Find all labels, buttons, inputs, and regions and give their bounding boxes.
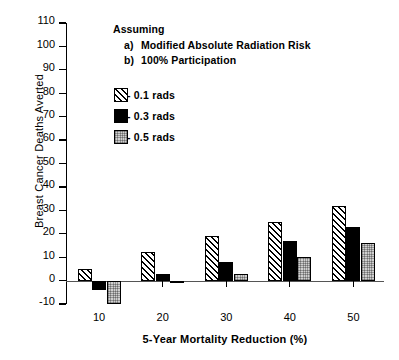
- y-tick-label: 40: [21, 178, 55, 190]
- y-tick-label: 90: [21, 61, 55, 73]
- y-tick: 90: [59, 69, 66, 70]
- y-tick-label: 0: [21, 272, 55, 284]
- y-tick: 110: [59, 22, 66, 23]
- y-tick: 70: [59, 116, 66, 117]
- legend-item: - 0.3 rads: [114, 105, 175, 126]
- assumption-item: a) Modified Absolute Radiation Risk: [124, 38, 311, 53]
- y-tick-label: 50: [21, 155, 55, 167]
- y-tick-label: 100: [21, 38, 55, 50]
- bar: [205, 236, 219, 280]
- bar: [283, 241, 297, 281]
- y-tick: 100: [59, 46, 66, 47]
- bar: [170, 281, 184, 283]
- bar: [361, 243, 375, 280]
- x-tick-label: 20: [143, 311, 183, 323]
- x-tick-label: 10: [79, 311, 119, 323]
- y-tick: 0: [59, 280, 66, 281]
- y-tick-label: -10: [21, 295, 55, 307]
- bar: [141, 252, 155, 280]
- assumption-text: 100% Participation: [141, 53, 236, 68]
- y-tick-label: 20: [21, 225, 55, 237]
- y-tick: 80: [59, 93, 66, 94]
- assumptions-heading: Assuming: [113, 22, 311, 37]
- y-tick-label: 110: [21, 14, 55, 26]
- legend-swatch-0-3-rads: [114, 109, 128, 123]
- y-tick: 30: [59, 210, 66, 211]
- x-tick: [353, 281, 354, 287]
- bar: [156, 274, 170, 281]
- x-tick: [162, 281, 163, 287]
- x-tick-label: 30: [206, 311, 246, 323]
- y-tick-label: 10: [21, 249, 55, 261]
- bar: [332, 206, 346, 281]
- assumption-item: b) 100% Participation: [124, 53, 311, 68]
- x-tick-label: 40: [270, 311, 310, 323]
- y-tick: 50: [59, 163, 66, 164]
- bar: [219, 262, 233, 281]
- bar: [234, 274, 248, 281]
- assumption-key: b): [124, 53, 141, 68]
- legend-label: - 0.5 rads: [127, 131, 175, 143]
- legend-swatch-0-1-rads: [114, 88, 128, 102]
- x-axis-title: 5-Year Mortality Reduction (%): [60, 333, 390, 345]
- y-axis-line: [66, 23, 67, 304]
- bar: [78, 269, 92, 281]
- y-tick: 20: [59, 233, 66, 234]
- y-tick: 10: [59, 257, 66, 258]
- y-tick-label: 70: [21, 108, 55, 120]
- y-tick-label: 60: [21, 131, 55, 143]
- assumption-text: Modified Absolute Radiation Risk: [141, 38, 311, 53]
- assumptions-annotation: Assuming a) Modified Absolute Radiation …: [113, 22, 311, 68]
- x-tick-label: 50: [333, 311, 373, 323]
- chart-figure: Breast Cancer Deaths Averted 5-Year Mort…: [0, 0, 399, 360]
- y-tick: 60: [59, 139, 66, 140]
- legend-item: - 0.5 rads: [114, 126, 175, 147]
- y-tick-label: 80: [21, 85, 55, 97]
- bar: [92, 281, 106, 290]
- assumption-key: a): [124, 38, 141, 53]
- x-tick: [289, 281, 290, 287]
- legend-swatch-0-5-rads: [114, 130, 128, 144]
- legend-label: - 0.3 rads: [127, 110, 175, 122]
- bar: [268, 222, 282, 281]
- bar: [346, 227, 360, 281]
- y-tick: -10: [59, 303, 66, 304]
- legend-label: - 0.1 rads: [127, 89, 175, 101]
- y-tick: 40: [59, 186, 66, 187]
- y-tick-label: 30: [21, 202, 55, 214]
- chart-legend: - 0.1 rads - 0.3 rads - 0.5 rads: [114, 84, 175, 147]
- bar: [297, 257, 311, 280]
- legend-item: - 0.1 rads: [114, 84, 175, 105]
- bar: [107, 281, 121, 304]
- x-tick: [226, 281, 227, 287]
